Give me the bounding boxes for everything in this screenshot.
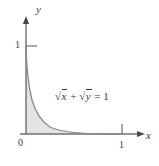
equation-plus: + bbox=[70, 90, 76, 102]
y-axis-label: y bbox=[36, 4, 41, 15]
radical-x: √x bbox=[55, 88, 67, 103]
x-axis-arrowhead bbox=[137, 131, 145, 137]
radicand-x: x bbox=[62, 89, 68, 103]
y-tick-label: 1 bbox=[15, 40, 20, 50]
x-tick-label: 1 bbox=[119, 140, 124, 150]
plot-svg bbox=[0, 0, 159, 166]
equation-annotation: √x + √y = 1 bbox=[55, 88, 109, 103]
radicand-y: y bbox=[86, 89, 92, 103]
radical-sign-y: √ bbox=[79, 90, 85, 102]
figure-container: y x 0 1 1 √x + √y = 1 bbox=[0, 0, 159, 166]
radical-y: √y bbox=[79, 88, 91, 103]
y-axis-arrowhead bbox=[23, 16, 29, 24]
radical-sign-x: √ bbox=[55, 90, 61, 102]
origin-label: 0 bbox=[18, 138, 23, 148]
x-axis-label: x bbox=[146, 130, 151, 141]
equation-rhs: = 1 bbox=[94, 90, 108, 102]
